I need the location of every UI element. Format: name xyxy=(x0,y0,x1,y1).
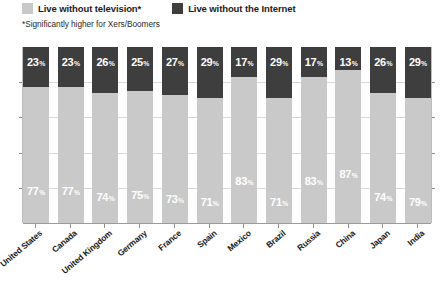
x-axis-label-slot: United Kingdom xyxy=(92,224,118,280)
x-axis-tick xyxy=(70,224,71,228)
x-axis-label-slot: Russia xyxy=(301,224,327,280)
bar-segment-internet[interactable]: 26% xyxy=(92,47,118,93)
x-axis-label-slot: Mexico xyxy=(231,224,257,280)
x-axis-label: Russia xyxy=(295,228,322,253)
bar-segment-television[interactable]: 74% xyxy=(370,93,396,223)
bar-value-label-internet: 26% xyxy=(96,57,114,68)
x-axis-labels: United StatesCanadaUnited KingdomGermany… xyxy=(23,224,431,284)
x-axis-label-slot: United States xyxy=(23,224,49,280)
bar-column[interactable]: 29%79% xyxy=(405,47,431,223)
bar-segment-television[interactable]: 74% xyxy=(92,93,118,223)
x-axis-label: United States xyxy=(0,228,44,269)
legend-swatch-internet-icon xyxy=(172,3,183,14)
bar-value-label-internet: 17% xyxy=(235,57,253,68)
bar-column[interactable]: 26%74% xyxy=(370,47,396,223)
chart-bars: 23%77%23%77%26%74%25%75%27%73%29%71%17%8… xyxy=(23,47,431,223)
bar-value-label-television: 83% xyxy=(235,176,253,187)
x-axis-label: Canada xyxy=(50,228,79,255)
x-axis-tick xyxy=(417,224,418,228)
bar-value-label-television: 87% xyxy=(340,169,358,180)
bar-segment-internet[interactable]: 23% xyxy=(23,47,49,87)
x-axis-tick xyxy=(104,224,105,228)
bar-value-label-television: 77% xyxy=(27,186,45,197)
y-axis-left xyxy=(22,47,23,223)
bar-segment-internet[interactable]: 29% xyxy=(266,47,292,98)
bar-segment-television[interactable]: 87% xyxy=(335,70,361,223)
x-axis-label-slot: China xyxy=(336,224,362,280)
bar-value-label-internet: 29% xyxy=(201,57,219,68)
bar-column[interactable]: 23%77% xyxy=(23,47,49,223)
legend-label-television: Live without television* xyxy=(38,3,141,14)
x-axis-label-slot: Germany xyxy=(127,224,153,280)
y-axis-right xyxy=(431,47,432,223)
x-axis-tick xyxy=(313,224,314,228)
bar-value-label-television: 71% xyxy=(270,197,288,208)
bar-column[interactable]: 29%71% xyxy=(266,47,292,223)
bar-segment-internet[interactable]: 27% xyxy=(162,47,188,95)
x-axis-tick xyxy=(174,224,175,228)
bar-value-label-internet: 23% xyxy=(62,57,80,68)
legend-item-television: Live without television* xyxy=(22,3,141,14)
bar-value-label-internet: 23% xyxy=(27,57,45,68)
bar-segment-television[interactable]: 75% xyxy=(127,91,153,223)
bar-column[interactable]: 29%71% xyxy=(197,47,223,223)
x-axis-tick xyxy=(382,224,383,228)
bar-segment-television[interactable]: 71% xyxy=(266,98,292,223)
x-axis-tick xyxy=(35,224,36,228)
bar-segment-internet[interactable]: 29% xyxy=(197,47,223,98)
bar-segment-internet[interactable]: 23% xyxy=(58,47,84,87)
bar-value-label-internet: 17% xyxy=(305,57,323,68)
bar-segment-television[interactable]: 77% xyxy=(23,87,49,223)
bar-column[interactable]: 17%83% xyxy=(231,47,257,223)
bar-segment-internet[interactable]: 29% xyxy=(405,47,431,98)
x-axis-label: India xyxy=(406,228,427,248)
x-axis-label: Japan xyxy=(367,228,391,251)
bar-value-label-television: 83% xyxy=(305,176,323,187)
x-axis-label-slot: Brazil xyxy=(266,224,292,280)
x-axis-label-slot: Japan xyxy=(370,224,396,280)
bar-value-label-television: 73% xyxy=(166,194,184,205)
x-axis-label-slot: France xyxy=(162,224,188,280)
bar-value-label-television: 74% xyxy=(96,192,114,203)
x-axis-tick xyxy=(209,224,210,228)
bar-segment-internet[interactable]: 26% xyxy=(370,47,396,93)
bar-value-label-television: 74% xyxy=(374,192,392,203)
bar-value-label-television: 75% xyxy=(131,190,149,201)
bar-column[interactable]: 13%87% xyxy=(335,47,361,223)
bar-segment-television[interactable]: 71% xyxy=(197,98,223,223)
x-axis-label: France xyxy=(157,228,184,253)
x-axis-label: Germany xyxy=(115,228,148,258)
x-axis-label: Mexico xyxy=(225,228,252,253)
bar-value-label-internet: 29% xyxy=(270,57,288,68)
bar-column[interactable]: 27%73% xyxy=(162,47,188,223)
x-axis-label: Spain xyxy=(195,228,218,250)
bar-value-label-internet: 27% xyxy=(166,57,184,68)
x-axis-tick xyxy=(348,224,349,228)
bar-value-label-television: 71% xyxy=(201,197,219,208)
bar-value-label-internet: 13% xyxy=(340,57,358,68)
bar-column[interactable]: 17%83% xyxy=(301,47,327,223)
bar-segment-television[interactable]: 83% xyxy=(231,77,257,223)
bar-segment-internet[interactable]: 25% xyxy=(127,47,153,91)
x-axis-label-slot: India xyxy=(405,224,431,280)
legend-label-internet: Live without the Internet xyxy=(188,3,295,14)
x-axis-label: China xyxy=(333,228,357,250)
bar-value-label-internet: 25% xyxy=(131,57,149,68)
x-axis-label: Brazil xyxy=(264,228,287,250)
bar-segment-television[interactable]: 73% xyxy=(162,95,188,223)
x-axis-tick xyxy=(243,224,244,228)
legend-swatch-television-icon xyxy=(22,3,33,14)
bar-segment-internet[interactable]: 17% xyxy=(231,47,257,77)
bar-segment-television[interactable]: 83% xyxy=(301,77,327,223)
bar-segment-internet[interactable]: 17% xyxy=(301,47,327,77)
bar-segment-television[interactable]: 77% xyxy=(58,87,84,223)
bar-value-label-internet: 29% xyxy=(409,57,427,68)
x-axis-label-slot: Spain xyxy=(197,224,223,280)
bar-value-label-television: 79% xyxy=(409,197,427,208)
bar-column[interactable]: 23%77% xyxy=(58,47,84,223)
bar-column[interactable]: 25%75% xyxy=(127,47,153,223)
bar-segment-television[interactable]: 79% xyxy=(405,98,431,223)
bar-segment-internet[interactable]: 13% xyxy=(335,47,361,70)
chart-plot-area: 23%77%23%77%26%74%25%75%27%73%29%71%17%8… xyxy=(23,47,431,223)
bar-column[interactable]: 26%74% xyxy=(92,47,118,223)
